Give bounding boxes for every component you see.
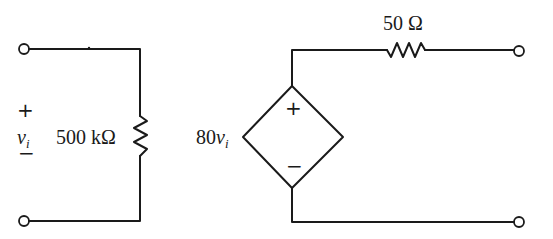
input-minus-sign: − (18, 143, 35, 163)
output-bottom-wire (292, 188, 514, 222)
dependent-source-gain-label: 80vi (196, 127, 229, 147)
input-top-wire (29, 49, 140, 116)
output-top-wire-left (292, 50, 387, 86)
output-bottom-terminal (514, 217, 524, 227)
input-top-terminal (19, 44, 29, 54)
input-bottom-terminal (19, 216, 29, 226)
control-voltage-subscript: i (225, 136, 229, 151)
gain-value: 80 (196, 126, 216, 148)
output-top-terminal (514, 46, 524, 56)
source-plus-sign: + (285, 98, 302, 118)
output-resistor-zigzag (387, 43, 425, 57)
input-resistor-label: 500 kΩ (56, 127, 116, 147)
output-resistor-label: 50 Ω (383, 13, 423, 33)
junction-dot (88, 47, 90, 49)
source-minus-sign: − (286, 156, 303, 176)
control-voltage-symbol: v (216, 126, 225, 148)
circuit-diagram (0, 0, 553, 239)
input-plus-sign: + (17, 100, 34, 120)
input-resistor-zigzag (134, 116, 147, 156)
input-bottom-wire (29, 156, 140, 221)
